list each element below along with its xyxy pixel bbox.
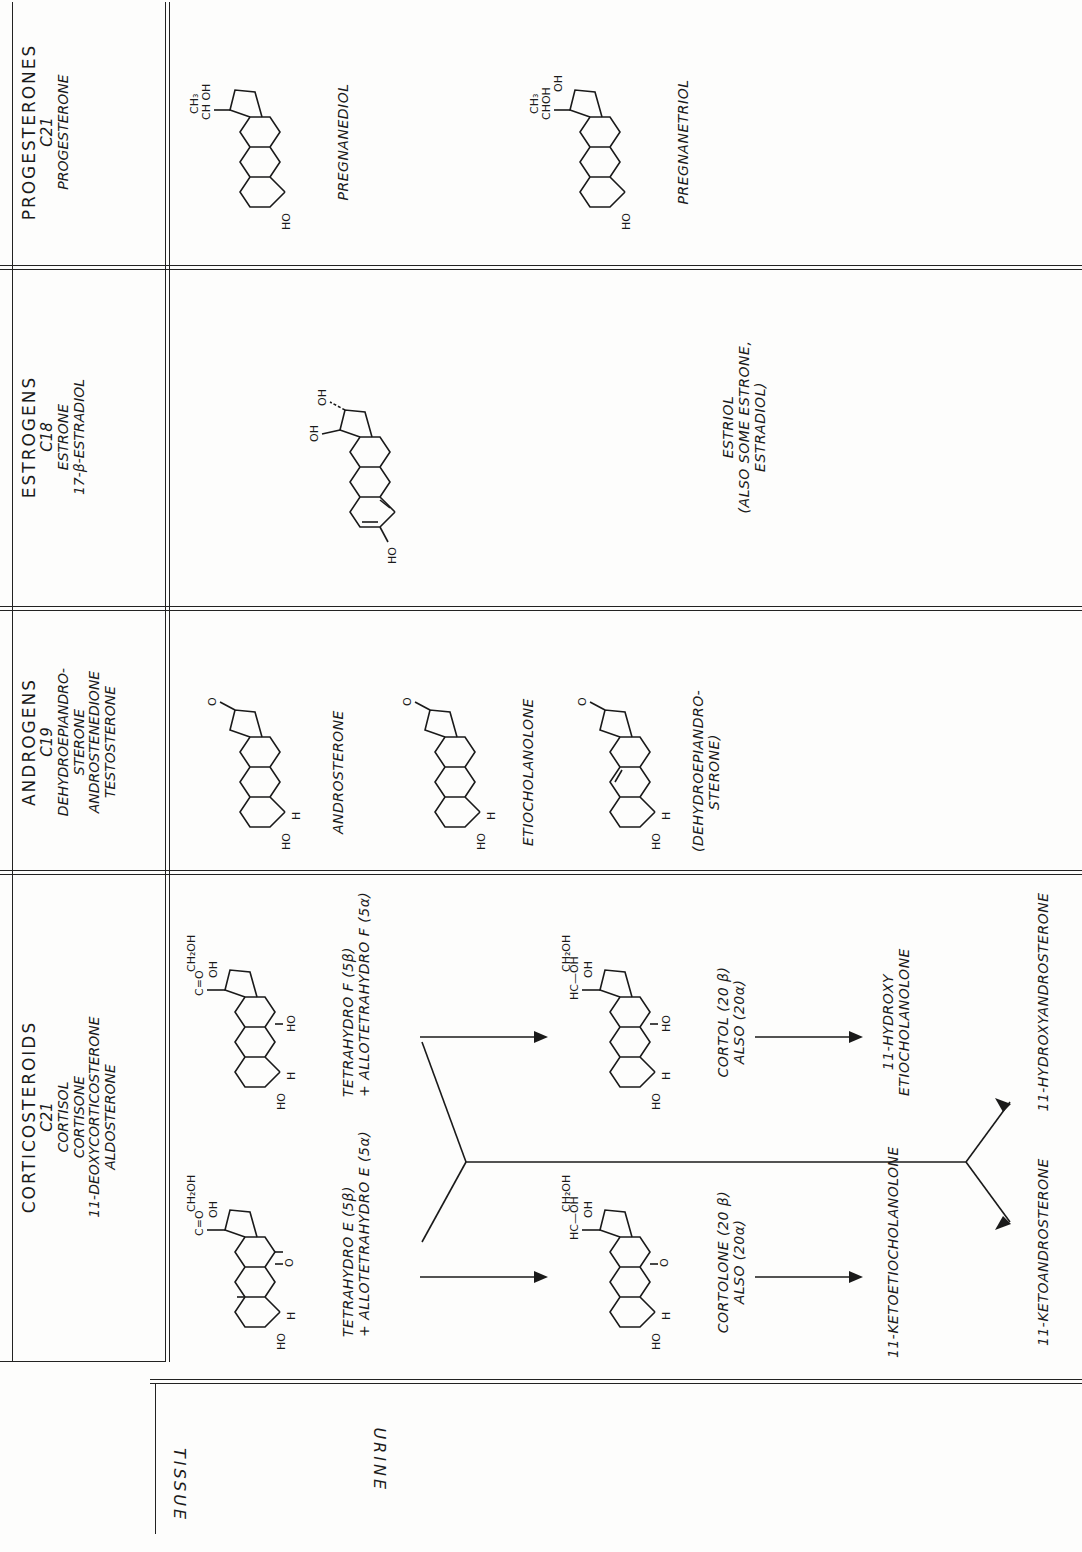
svg-text:HO: HO (285, 1015, 298, 1032)
label-line: 11-HYDROXY (880, 947, 896, 1097)
hormone: ANDROSTENEDIONE (87, 617, 103, 867)
svg-text:CH₂OH: CH₂OH (185, 935, 198, 972)
svg-text:OH: OH (552, 75, 565, 92)
svg-text:O: O (576, 697, 589, 706)
svg-text:HO: HO (660, 1015, 673, 1032)
carbon-count: C19 (39, 617, 56, 867)
label-line: + ALLOTETRAHYDRO F (5α) (356, 947, 372, 1097)
svg-text:HO: HO (620, 213, 633, 230)
svg-text:HO: HO (275, 1093, 288, 1110)
tetrahydro-f-structure: C=OCH₂OH OH HO H HO (185, 952, 325, 1112)
svg-text:OH: OH (207, 1201, 220, 1218)
etiocholanolone-structure: O H HO (385, 692, 505, 852)
label-line: ESTRADIOL) (752, 302, 768, 552)
hormone: PROGESTERONE (56, 2, 72, 262)
column-divider-estro-proges (0, 265, 1082, 270)
hormone: ALDOSTERONE (103, 882, 119, 1352)
svg-text:HO: HO (650, 833, 663, 850)
pregnanediol-structure: CH OHCH₃ HO (190, 52, 320, 232)
svg-text:CH₂OH: CH₂OH (560, 1175, 573, 1212)
label-line: ESTRIOL (720, 302, 736, 552)
tissue-label: TISSUE (170, 1448, 189, 1522)
carbon-count: C21 (39, 2, 56, 262)
svg-text:H: H (285, 1072, 298, 1080)
label-line: CORTOL (20 β) (715, 947, 731, 1097)
svg-text:OH: OH (582, 1201, 595, 1218)
svg-text:C=O: C=O (193, 970, 206, 996)
svg-text:H: H (660, 1312, 673, 1320)
tetrahydro-e-structure: C=OCH₂OH OH O H HO (185, 1192, 325, 1352)
hormone: TESTOSTERONE (103, 617, 119, 867)
hormone: 17-β-ESTRADIOL (72, 272, 88, 602)
estriol-structure: OH OH HO (300, 332, 440, 552)
class-name: CORTICOSTEROIDS (20, 882, 39, 1352)
svg-text:HO: HO (275, 1333, 288, 1350)
androsterone-structure: O H HO (190, 692, 310, 852)
hormone: ESTRONE (56, 272, 72, 602)
pregnanetriol-label: PREGNANETRIOL (675, 52, 691, 232)
hormone: CORTISOL (56, 882, 72, 1352)
estriol-label: ESTRIOL (ALSO SOME ESTRONE, ESTRADIOL) (720, 302, 768, 552)
svg-text:H: H (285, 1312, 298, 1320)
carbon-count: C21 (39, 882, 56, 1352)
urine-bottom-row-line (155, 1384, 156, 1534)
hormone: STERONE (72, 617, 88, 867)
header-progesterones: PROGESTERONES C21 PROGESTERONE (20, 2, 72, 262)
column-divider-andro-estro (0, 606, 1082, 611)
label-line: ALSO (20α) (731, 947, 747, 1097)
urine-label: URINE (370, 1427, 389, 1492)
svg-text:HO: HO (650, 1333, 663, 1350)
arrow-cortolone-to-keto-etio (755, 1267, 865, 1287)
dehydroepiandrosterone-label: (DEHYDROEPIANDRO- STERONE) (690, 692, 722, 852)
label-line: STERONE) (706, 692, 722, 852)
tetrahydro-e-label: TETRAHYDRO E (5β) + ALLOTETRAHYDRO E (5α… (340, 1187, 372, 1337)
arrow-to-11-hydroxyandrosterone (995, 1092, 1025, 1112)
androsterone-label: ANDROSTERONE (330, 692, 346, 852)
11-hydroxyetiocholanolone-label: 11-HYDROXY ETIOCHOLANOLONE (880, 947, 912, 1097)
tissue-urine-border-top (0, 1361, 165, 1362)
class-name: ESTROGENS (20, 272, 39, 602)
steroid-metabolism-figure: TISSUE URINE CORTICOSTEROIDS C21 CORTISO… (0, 0, 1082, 1552)
column-divider-cortico-andro (0, 870, 1082, 875)
svg-text:OH: OH (582, 961, 595, 978)
svg-text:O: O (206, 697, 219, 706)
etiocholanolone-label: ETIOCHOLANOLONE (520, 692, 536, 852)
svg-text:H: H (660, 812, 673, 820)
label-line: ALSO (20α) (731, 1187, 747, 1337)
pregnanetriol-structure: CHOHCH₃ OH HO (530, 52, 660, 232)
svg-text:HO: HO (280, 833, 293, 850)
cortolone-label: CORTOLONE (20 β) ALSO (20α) (715, 1187, 747, 1337)
label-line: ETIOCHOLANOLONE (896, 947, 912, 1097)
svg-text:OH: OH (316, 389, 329, 406)
svg-text:HO: HO (650, 1093, 663, 1110)
class-name: PROGESTERONES (20, 2, 39, 262)
svg-text:CH OH: CH OH (200, 84, 213, 120)
cortolone-structure: HC—OHCH₂OH OH O H HO (560, 1192, 700, 1352)
cortol-structure: HC—OHCH₂OH OH HO H HO (560, 952, 700, 1112)
pregnanediol-label: PREGNANEDIOL (335, 52, 351, 232)
label-line: TETRAHYDRO F (5β) (340, 947, 356, 1097)
header-estrogens: ESTROGENS C18 ESTRONE 17-β-ESTRADIOL (20, 272, 87, 602)
dehydroepiandrosterone-structure: O H HO (560, 692, 680, 852)
class-name: ANDROGENS (20, 617, 39, 867)
svg-text:HO: HO (280, 213, 293, 230)
svg-text:CH₂OH: CH₂OH (560, 935, 573, 972)
11-ketoetiocholanolone-label: 11-KETOETIOCHOLANOLONE (885, 1127, 901, 1377)
header-corticosteroids: CORTICOSTEROIDS C21 CORTISOL CORTISONE 1… (20, 882, 119, 1352)
arrow-to-11-ketoandrosterone (995, 1210, 1025, 1230)
svg-text:HO: HO (386, 547, 399, 564)
label-line: TETRAHYDRO E (5β) (340, 1187, 356, 1337)
label-line: + ALLOTETRAHYDRO E (5α) (356, 1187, 372, 1337)
svg-text:O: O (658, 1258, 671, 1267)
11-ketoandrosterone-label: 11-KETOANDROSTERONE (1035, 1127, 1051, 1377)
label-line: (DEHYDROEPIANDRO- (690, 692, 706, 852)
label-line: CORTOLONE (20 β) (715, 1187, 731, 1337)
svg-text:HO: HO (475, 833, 488, 850)
svg-text:OH: OH (207, 961, 220, 978)
svg-text:CH₃: CH₃ (188, 94, 201, 114)
11-hydroxyandrosterone-label: 11-HYDROXYANDROSTERONE (1035, 872, 1051, 1132)
hormone: 11-DEOXYCORTICOSTERONE (87, 882, 103, 1352)
svg-text:CHOH: CHOH (540, 87, 553, 120)
carbon-count: C18 (39, 272, 56, 602)
arrow-tetrahydro-e-to-cortolone (420, 1267, 550, 1287)
